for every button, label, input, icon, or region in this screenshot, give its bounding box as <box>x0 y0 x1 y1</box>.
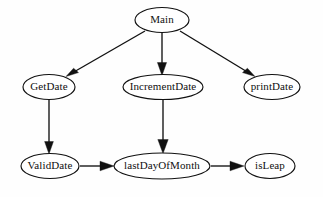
edge-main-to-getdate <box>66 31 145 77</box>
edge-validdate-to-lastdayofmonth <box>80 161 114 171</box>
node-validdate[interactable]: ValidDate <box>21 154 79 179</box>
edge-getdate-to-validdate <box>45 100 54 154</box>
node-label-printdate: printDate <box>251 80 293 92</box>
node-lastdayofmonth[interactable]: lastDayOfMonth <box>114 153 210 179</box>
node-layer: Main GetDate IncrementDate printDate Val… <box>21 8 300 180</box>
node-incrementdate[interactable]: IncrementDate <box>123 75 203 100</box>
arrowhead-main-getdate <box>66 68 79 76</box>
edge-line-main-printdate <box>180 31 252 75</box>
edge-layer <box>45 31 255 171</box>
edge-lastdayofmonth-to-isleap <box>211 161 244 171</box>
arrowhead-incrementdate-lastdayofmonth <box>158 140 168 154</box>
arrowhead-lastdayofmonth-isleap <box>230 161 244 171</box>
call-graph-diagram: Main GetDate IncrementDate printDate Val… <box>0 0 323 197</box>
node-isleap[interactable]: isLeap <box>245 154 295 179</box>
node-getdate[interactable]: GetDate <box>23 75 75 100</box>
node-label-main: Main <box>150 13 174 25</box>
node-label-isleap: isLeap <box>255 159 285 171</box>
edge-incrementdate-to-lastdayofmonth <box>158 100 168 154</box>
node-label-validdate: ValidDate <box>28 159 73 171</box>
edge-main-to-printdate <box>180 31 255 77</box>
arrowhead-getdate-validdate <box>45 142 54 155</box>
arrowhead-main-incrementdate <box>157 63 166 76</box>
node-label-lastdayofmonth: lastDayOfMonth <box>124 159 200 171</box>
node-label-getdate: GetDate <box>30 80 67 92</box>
node-label-incrementdate: IncrementDate <box>130 80 197 92</box>
node-main[interactable]: Main <box>135 8 189 33</box>
call-graph-canvas: Main GetDate IncrementDate printDate Val… <box>0 0 323 197</box>
edge-main-to-incrementdate <box>157 33 166 76</box>
edge-line-main-getdate <box>70 31 146 75</box>
node-printdate[interactable]: printDate <box>244 75 300 100</box>
arrowhead-validdate-lastdayofmonth <box>100 161 114 171</box>
